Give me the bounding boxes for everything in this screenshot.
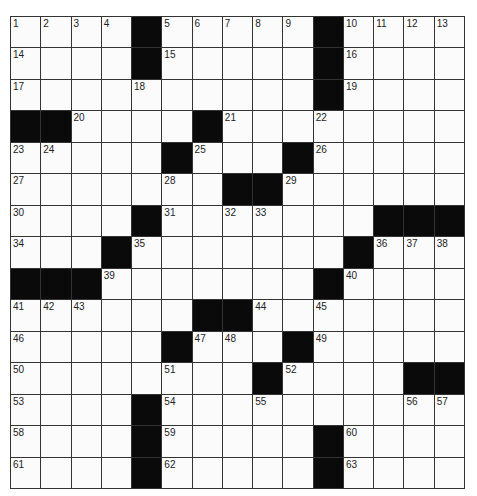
grid-cell[interactable] [404, 332, 433, 362]
grid-cell[interactable] [435, 174, 464, 204]
grid-cell[interactable] [223, 269, 252, 299]
grid-cell[interactable] [223, 237, 252, 267]
grid-cell[interactable]: 24 [41, 143, 70, 173]
grid-cell[interactable]: 35 [132, 237, 161, 267]
grid-cell[interactable] [193, 48, 222, 78]
grid-cell[interactable]: 15 [162, 48, 191, 78]
grid-cell[interactable] [223, 395, 252, 425]
grid-cell[interactable] [72, 237, 101, 267]
grid-cell[interactable]: 50 [11, 363, 40, 393]
grid-cell[interactable] [435, 426, 464, 456]
grid-cell[interactable] [253, 269, 282, 299]
grid-cell[interactable] [253, 237, 282, 267]
grid-cell[interactable]: 6 [193, 17, 222, 47]
grid-cell[interactable] [193, 206, 222, 236]
grid-cell[interactable] [102, 206, 131, 236]
grid-cell[interactable]: 37 [404, 237, 433, 267]
grid-cell[interactable] [374, 111, 403, 141]
grid-cell[interactable]: 7 [223, 17, 252, 47]
grid-cell[interactable]: 26 [314, 143, 343, 173]
grid-cell[interactable] [162, 269, 191, 299]
grid-cell[interactable]: 20 [72, 111, 101, 141]
grid-cell[interactable]: 61 [11, 458, 40, 488]
grid-cell[interactable] [102, 48, 131, 78]
grid-cell[interactable] [41, 395, 70, 425]
grid-cell[interactable] [374, 80, 403, 110]
grid-cell[interactable]: 49 [314, 332, 343, 362]
grid-cell[interactable] [72, 48, 101, 78]
grid-cell[interactable]: 29 [283, 174, 312, 204]
grid-cell[interactable] [314, 206, 343, 236]
grid-cell[interactable] [132, 269, 161, 299]
grid-cell[interactable] [404, 80, 433, 110]
grid-cell[interactable]: 39 [102, 269, 131, 299]
grid-cell[interactable]: 12 [404, 17, 433, 47]
grid-cell[interactable] [283, 426, 312, 456]
grid-cell[interactable] [314, 395, 343, 425]
grid-cell[interactable]: 46 [11, 332, 40, 362]
grid-cell[interactable] [41, 80, 70, 110]
grid-cell[interactable] [404, 143, 433, 173]
grid-cell[interactable] [102, 174, 131, 204]
grid-cell[interactable]: 33 [253, 206, 282, 236]
grid-cell[interactable] [374, 458, 403, 488]
grid-cell[interactable] [404, 458, 433, 488]
grid-cell[interactable] [314, 237, 343, 267]
grid-cell[interactable] [283, 237, 312, 267]
grid-cell[interactable] [344, 332, 373, 362]
grid-cell[interactable] [283, 206, 312, 236]
grid-cell[interactable]: 1 [11, 17, 40, 47]
grid-cell[interactable]: 8 [253, 17, 282, 47]
grid-cell[interactable] [283, 269, 312, 299]
grid-cell[interactable] [223, 48, 252, 78]
grid-cell[interactable]: 53 [11, 395, 40, 425]
grid-cell[interactable] [374, 174, 403, 204]
grid-cell[interactable] [404, 174, 433, 204]
grid-cell[interactable] [41, 237, 70, 267]
grid-cell[interactable] [72, 395, 101, 425]
grid-cell[interactable] [314, 363, 343, 393]
grid-cell[interactable]: 21 [223, 111, 252, 141]
grid-cell[interactable] [374, 395, 403, 425]
grid-cell[interactable]: 59 [162, 426, 191, 456]
grid-cell[interactable] [283, 111, 312, 141]
grid-cell[interactable] [162, 300, 191, 330]
grid-cell[interactable]: 5 [162, 17, 191, 47]
grid-cell[interactable]: 58 [11, 426, 40, 456]
grid-cell[interactable] [193, 174, 222, 204]
grid-cell[interactable] [314, 174, 343, 204]
grid-cell[interactable]: 52 [283, 363, 312, 393]
grid-cell[interactable]: 17 [11, 80, 40, 110]
grid-cell[interactable]: 43 [72, 300, 101, 330]
grid-cell[interactable]: 25 [193, 143, 222, 173]
grid-cell[interactable]: 40 [344, 269, 373, 299]
grid-cell[interactable] [223, 458, 252, 488]
grid-cell[interactable] [253, 458, 282, 488]
grid-cell[interactable]: 11 [374, 17, 403, 47]
grid-cell[interactable] [102, 458, 131, 488]
grid-cell[interactable] [193, 269, 222, 299]
grid-cell[interactable] [72, 174, 101, 204]
grid-cell[interactable] [374, 363, 403, 393]
grid-cell[interactable] [41, 174, 70, 204]
grid-cell[interactable]: 57 [435, 395, 464, 425]
grid-cell[interactable] [283, 300, 312, 330]
grid-cell[interactable]: 16 [344, 48, 373, 78]
grid-cell[interactable] [102, 143, 131, 173]
grid-cell[interactable]: 54 [162, 395, 191, 425]
grid-cell[interactable]: 60 [344, 426, 373, 456]
grid-cell[interactable]: 23 [11, 143, 40, 173]
grid-cell[interactable] [435, 80, 464, 110]
grid-cell[interactable] [102, 111, 131, 141]
grid-cell[interactable]: 62 [162, 458, 191, 488]
grid-cell[interactable] [72, 80, 101, 110]
grid-cell[interactable]: 27 [11, 174, 40, 204]
grid-cell[interactable] [102, 363, 131, 393]
grid-cell[interactable] [132, 174, 161, 204]
grid-cell[interactable] [435, 111, 464, 141]
grid-cell[interactable] [41, 206, 70, 236]
grid-cell[interactable]: 36 [374, 237, 403, 267]
grid-cell[interactable]: 42 [41, 300, 70, 330]
grid-cell[interactable] [102, 332, 131, 362]
grid-cell[interactable] [374, 426, 403, 456]
